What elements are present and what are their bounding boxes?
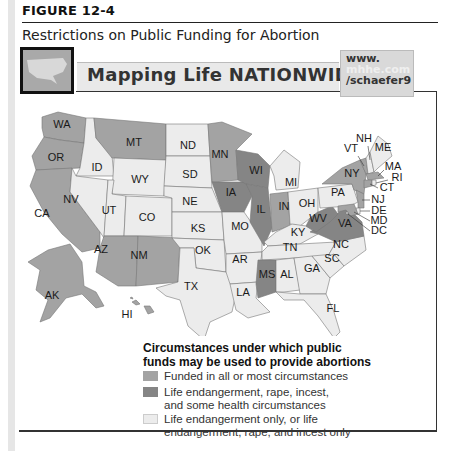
label-ME: ME (375, 141, 392, 153)
legend-label: Funded in all or most circumstances (164, 370, 348, 383)
label-IA: IA (226, 186, 237, 198)
label-AL: AL (280, 268, 293, 280)
state-NM (136, 236, 180, 286)
label-CA: CA (34, 207, 50, 219)
state-FL (276, 292, 340, 336)
label-IN: IN (279, 200, 290, 212)
label-WI: WI (249, 164, 262, 176)
figure-title: Restrictions on Public Funding for Abort… (22, 27, 320, 43)
us-states-map: WA OR CA ID NV MT WY UT CO AZ NM ND SD N… (20, 96, 436, 336)
label-SD: SD (182, 168, 197, 180)
label-NM: NM (130, 249, 147, 261)
label-KS: KS (191, 222, 206, 234)
label-WA: WA (53, 118, 71, 130)
label-NH: NH (356, 132, 372, 144)
us-map-thumbnail-icon (20, 47, 74, 94)
label-GA: GA (304, 262, 321, 274)
label-UT: UT (102, 204, 117, 216)
label-AR: AR (232, 253, 247, 265)
label-MT: MT (126, 136, 142, 148)
banner-title: Mapping Life NATIONWIDE (87, 64, 363, 85)
label-DC: DC (371, 224, 387, 236)
state-IN (270, 192, 290, 232)
label-AZ: AZ (94, 243, 108, 255)
label-AK: AK (45, 289, 60, 301)
title-rule (22, 22, 438, 23)
legend-label: Life endangerment, rape, incest, and som… (164, 386, 329, 412)
label-MN: MN (211, 148, 228, 160)
legend-swatch-life-only (143, 414, 158, 424)
state-AK (28, 244, 104, 322)
label-NE: NE (182, 195, 197, 207)
label-FL: FL (327, 302, 340, 314)
label-VA: VA (338, 217, 353, 229)
legend-title: Circumstances under which public funds m… (143, 341, 371, 369)
label-OK: OK (195, 244, 212, 256)
state-DC (346, 212, 348, 214)
label-NV: NV (63, 193, 79, 205)
label-LA: LA (236, 286, 250, 298)
label-HI: HI (122, 308, 133, 320)
label-CT: CT (380, 181, 395, 193)
page-margin-strip (8, 0, 15, 451)
label-SC: SC (324, 252, 339, 264)
label-ND: ND (180, 139, 196, 151)
label-KY: KY (291, 226, 306, 238)
label-MS: MS (259, 268, 276, 280)
label-TX: TX (184, 280, 199, 292)
legend-title-line-2: funds may be used to provide abortions (143, 355, 371, 369)
legend-title-line-1: Circumstances under which public (143, 341, 371, 355)
label-NC: NC (333, 238, 349, 250)
label-TN: TN (283, 241, 298, 253)
state-HI (130, 297, 154, 314)
label-ID: ID (92, 161, 103, 173)
label-MO: MO (231, 220, 249, 232)
legend-swatch-funded-all (143, 371, 158, 381)
legend-label: Life endangerment only, or life endanger… (164, 413, 351, 439)
label-CO: CO (139, 211, 156, 223)
legend-swatch-life-rape-incest-health (143, 387, 158, 397)
label-WV: WV (309, 212, 327, 224)
label-PA: PA (331, 186, 346, 198)
label-WY: WY (131, 173, 149, 185)
label-OR: OR (48, 151, 65, 163)
label-OH: OH (299, 197, 316, 209)
website-line-3[interactable]: /schaefer9 (346, 74, 411, 87)
state-CT (364, 180, 372, 188)
label-IL: IL (256, 203, 265, 215)
label-NY: NY (344, 167, 360, 179)
label-MI: MI (285, 176, 297, 188)
figure-number: FIGURE 12-4 (22, 3, 115, 18)
